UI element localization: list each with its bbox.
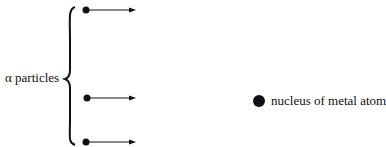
arrow-head-icon xyxy=(129,140,136,145)
alpha-particles-label: α particles xyxy=(5,70,59,86)
arrow-head-icon xyxy=(129,8,136,13)
curly-brace xyxy=(65,7,75,145)
alpha-particle-1 xyxy=(83,7,137,14)
arrow-head-icon xyxy=(129,96,136,101)
alpha-particle-2 xyxy=(84,95,137,102)
alpha-particle-3 xyxy=(83,139,137,146)
nucleus-dot-icon xyxy=(253,95,265,107)
nucleus-label: nucleus of metal atom xyxy=(271,93,386,109)
